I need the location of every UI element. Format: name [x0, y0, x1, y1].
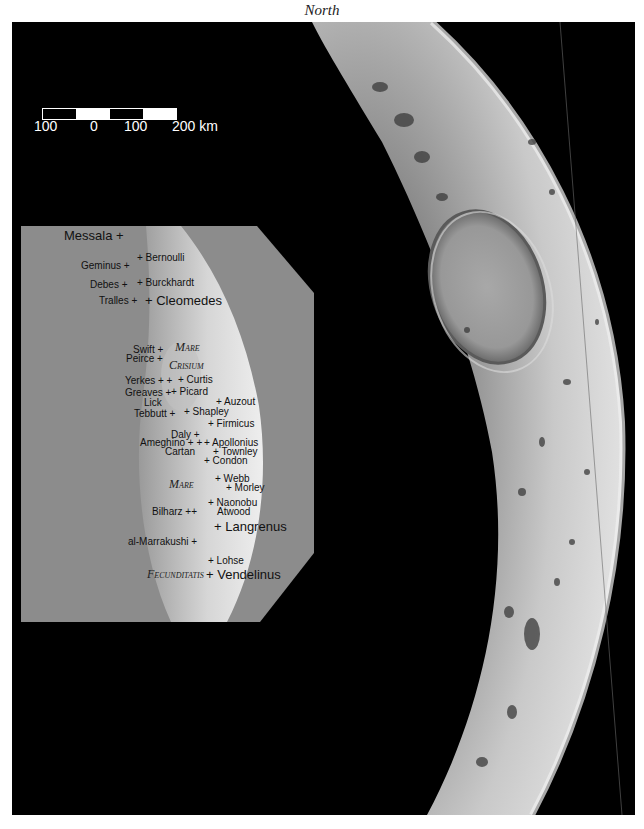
crater-label-condon: + Condon [204, 455, 248, 466]
crater-label-shapley: + Shapley [184, 406, 229, 417]
crater-label-firmicus: + Firmicus [208, 418, 254, 429]
scale-bar: 100 0 100 200 km [32, 108, 232, 148]
map-title-north: North [0, 2, 644, 19]
crater-label-atwood: Atwood [217, 506, 250, 517]
crater-label-bernoulli: + Bernoulli [137, 252, 185, 263]
crater-label-cartan: Cartan [165, 446, 195, 457]
crater-label-messala: Messala + [64, 229, 124, 243]
crater-label-lick: Lick [144, 397, 162, 408]
crater-label-langrenus: + Langrenus [214, 520, 287, 534]
mare-label-mare-fecunditatis-2: Fecunditatis [147, 569, 204, 580]
crater-label-peirce: Peirce + [126, 353, 163, 364]
labeled-inset-map: Messala + + Bernoulli Geminus + Debes + … [21, 226, 314, 622]
crater-label-debes: Debes + [90, 279, 128, 290]
scale-label-100-right: 100 [124, 118, 147, 134]
scale-segment [143, 109, 176, 119]
mare-label-mare-crisium-2: Crisium [169, 360, 204, 371]
crater-label-cleomedes: + Cleomedes [145, 294, 222, 308]
moon-photograph: 100 0 100 200 km Messala + + Bernoulli G… [12, 22, 635, 815]
crater-label-lohse: + Lohse [208, 555, 244, 566]
scale-bar-segments [42, 108, 177, 120]
mare-label-mare-crisium-1: Mare [175, 342, 200, 353]
crater-label-curtis: + Curtis [178, 374, 213, 385]
crater-label-al-marrakushi: al-Marrakushi + [128, 536, 197, 547]
crater-label-yerkes: Yerkes + + [125, 375, 172, 386]
crater-label-tebbutt: Tebbutt + [134, 408, 175, 419]
crater-label-vendelinus: + Vendelinus [206, 568, 281, 582]
crater-label-morley: + Morley [226, 482, 265, 493]
mare-label-mare-fecunditatis-1: Mare [169, 479, 194, 490]
scale-label-200-km: 200 km [172, 118, 218, 134]
crater-label-geminus: Geminus + [81, 260, 130, 271]
crater-label-burckhardt: + Burckhardt [137, 277, 194, 288]
crater-label-picard: + Picard [171, 386, 208, 397]
scale-label-100-left: 100 [34, 118, 57, 134]
crater-label-tralles: Tralles + [99, 295, 137, 306]
scale-label-0: 0 [90, 118, 98, 134]
crater-label-bilharz: Bilharz ++ [152, 506, 197, 517]
